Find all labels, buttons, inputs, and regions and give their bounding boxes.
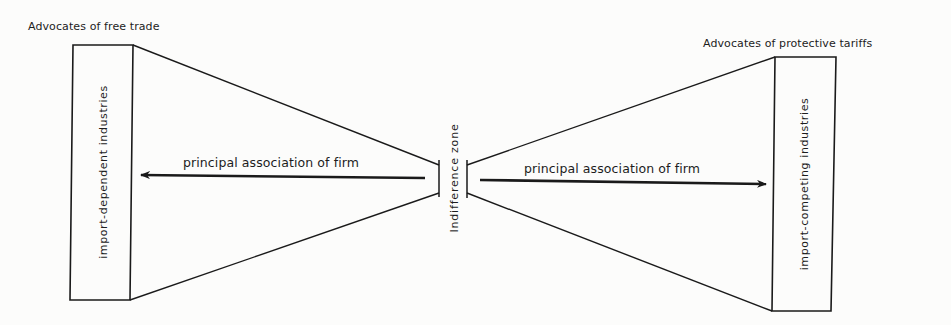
free-trade-advocates-title: Advocates of free trade <box>28 20 160 33</box>
protective-tariffs-advocates-title: Advocates of protective tariffs <box>703 37 872 50</box>
left-wedge-bottom-line <box>130 193 439 300</box>
right-wedge-bottom-line <box>467 193 772 311</box>
indifference-zone-label: Indifference zone <box>448 124 461 233</box>
left-association-arrow <box>141 175 425 178</box>
right-wedge-top-line <box>467 57 775 165</box>
import-dependent-industries-label: import-dependent industries <box>97 85 110 259</box>
left-arrow-label: principal association of firm <box>183 155 359 170</box>
import-competing-industries-label: import-competing industries <box>798 98 811 271</box>
right-association-arrow <box>480 180 766 184</box>
left-wedge-top-line <box>133 45 439 165</box>
right-arrow-label: principal association of firm <box>524 161 700 176</box>
